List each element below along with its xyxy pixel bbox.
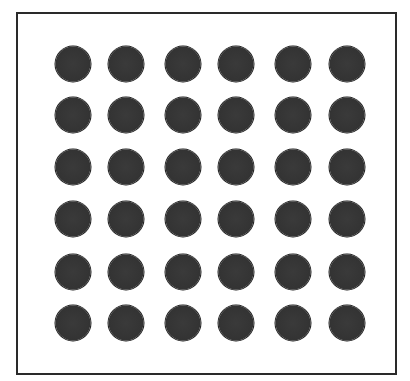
grid-dot: [219, 202, 254, 237]
grid-dot: [56, 47, 91, 82]
grid-dot: [56, 306, 91, 341]
grid-dot: [219, 306, 254, 341]
grid-dot: [330, 98, 365, 133]
grid-dot: [330, 255, 365, 290]
grid-dot: [109, 255, 144, 290]
grid-dot: [276, 306, 311, 341]
grid-dot: [166, 98, 201, 133]
grid-dot: [166, 47, 201, 82]
grid-dot: [109, 150, 144, 185]
grid-dot: [276, 202, 311, 237]
grid-dot: [109, 47, 144, 82]
grid-dot: [330, 47, 365, 82]
grid-dot: [56, 98, 91, 133]
grid-dot: [276, 47, 311, 82]
grid-dot: [219, 47, 254, 82]
grid-dot: [276, 98, 311, 133]
grid-dot: [109, 98, 144, 133]
grid-dot: [330, 150, 365, 185]
grid-dot: [219, 255, 254, 290]
grid-dot: [56, 202, 91, 237]
grid-dot: [219, 150, 254, 185]
grid-dot: [109, 306, 144, 341]
grid-dot: [56, 150, 91, 185]
grid-dot: [276, 150, 311, 185]
grid-dot: [166, 150, 201, 185]
grid-dot: [166, 306, 201, 341]
grid-dot: [219, 98, 254, 133]
grid-dot: [166, 202, 201, 237]
grid-dot: [330, 306, 365, 341]
grid-dot: [276, 255, 311, 290]
grid-dot: [330, 202, 365, 237]
grid-dot: [56, 255, 91, 290]
grid-dot: [109, 202, 144, 237]
grid-dot: [166, 255, 201, 290]
